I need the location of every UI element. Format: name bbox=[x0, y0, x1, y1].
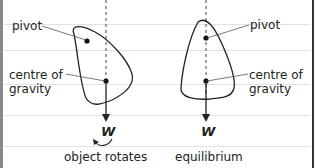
weight-arrowhead bbox=[202, 114, 210, 122]
pivot-leader bbox=[42, 26, 86, 40]
weight-label: W bbox=[101, 124, 115, 139]
pivot-label: pivot bbox=[12, 19, 42, 33]
weight-label: W bbox=[201, 124, 215, 139]
cog-leader bbox=[66, 74, 105, 81]
pivot-label: pivot bbox=[250, 18, 280, 32]
cog-leader bbox=[207, 74, 248, 81]
cog-label: centre of gravity bbox=[249, 68, 303, 96]
cog-label: centre of gravity bbox=[9, 68, 63, 96]
weight-arrowhead bbox=[102, 114, 110, 122]
equilibrium-diagram bbox=[181, 0, 249, 122]
pivot-dot bbox=[84, 38, 89, 43]
caption: equilibrium bbox=[175, 150, 243, 164]
object-outline bbox=[73, 27, 132, 105]
caption: object rotates bbox=[64, 150, 147, 164]
